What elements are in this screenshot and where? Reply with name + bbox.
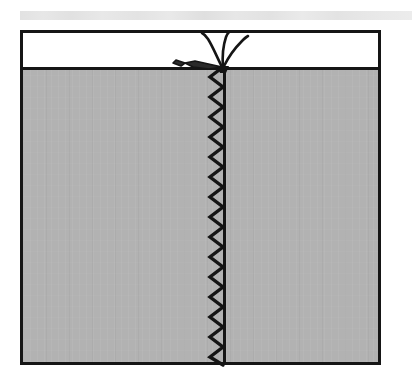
figure-caption: Zigzag stitch seam finish on a fabric ed… [0,0,1,1]
page-root: Zigzag stitch seam finish on a fabric ed… [0,0,412,386]
figure-frame [20,30,381,365]
header-band [20,11,412,20]
fabric-texture [23,70,378,362]
fabric-panel [23,70,378,362]
upper-white-panel [23,33,378,67]
